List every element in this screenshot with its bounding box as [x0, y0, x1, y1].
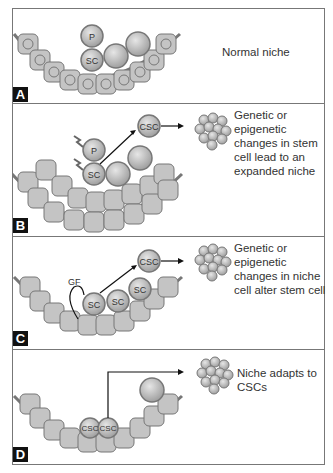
stem-cell-label: SC — [86, 56, 99, 66]
panel-d: CSC CSC Niche adapts to CSCs D — [12, 350, 325, 465]
csc-label: CSC — [100, 424, 117, 433]
progenitor-label: P — [89, 32, 95, 42]
panel-label-a: A — [13, 87, 28, 102]
stem-cell-label: SC — [88, 170, 101, 180]
lightning-icon — [74, 159, 83, 170]
progenitor-label: P — [91, 146, 97, 156]
panel-label-c: C — [13, 331, 28, 346]
caption-c: Genetic or epigenetic changes in niche c… — [234, 241, 329, 297]
panel-a: P SC Normal niche A — [12, 8, 325, 104]
stem-cell-label: SC — [88, 300, 101, 310]
panel-label-b: B — [13, 218, 28, 233]
stem-cell-label: SC — [134, 285, 147, 295]
caption-d: Niche adapts to CSCs — [237, 366, 322, 394]
caption-a: Normal niche — [222, 45, 322, 59]
lightning-icon — [74, 136, 83, 147]
stem-cell-label: SC — [112, 297, 125, 307]
panel-b: P SC CSC Genetic or epigenetic changes i… — [12, 104, 325, 237]
gf-label: GF — [68, 277, 81, 287]
csc-label: CSC — [139, 257, 159, 267]
csc-label: CSC — [82, 424, 99, 433]
csc-label: CSC — [139, 122, 159, 132]
caption-b: Genetic or epigenetic changes in stem ce… — [234, 108, 329, 178]
panel-label-d: D — [13, 447, 28, 462]
panel-c: SC SC SC CSC GF Genetic or epigenetic ch… — [12, 237, 325, 350]
